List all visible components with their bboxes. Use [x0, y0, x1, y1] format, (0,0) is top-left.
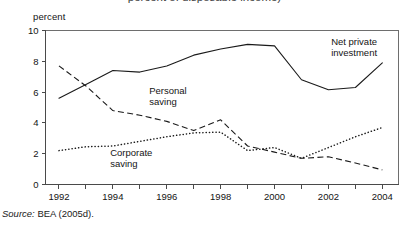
- y-axis-tick-label: 6: [33, 87, 38, 98]
- series-label-personal-saving: Personalsaving: [149, 85, 187, 107]
- source-prefix: Source:: [2, 208, 35, 219]
- x-axis-tick-label: 2004: [372, 191, 393, 201]
- series-line-corporate-saving: [59, 128, 382, 159]
- series-line-personal-saving: [59, 66, 382, 170]
- source-note: Source: BEA (2005d).: [2, 208, 94, 219]
- series-label-net-private-investment: Net privateinvestment: [331, 36, 377, 58]
- x-axis-tick-label: 1994: [102, 191, 123, 201]
- y-axis-tick-label: 4: [33, 117, 38, 128]
- x-axis-tick-label: 1996: [156, 191, 177, 201]
- series-group: [59, 44, 382, 170]
- y-axis-tick-label: 10: [28, 25, 39, 36]
- x-axis-tick-label: 2002: [318, 191, 339, 201]
- x-axis-tick-label: 1992: [48, 191, 69, 201]
- series-labels-group: Net privateinvestmentPersonalsavingCorpo…: [110, 36, 377, 169]
- chart-plot-area: 02468101992199419961998200020022004 Net …: [0, 0, 409, 200]
- x-axis-tick-label: 1998: [210, 191, 231, 201]
- series-label-corporate-saving: Corporatesaving: [110, 147, 152, 169]
- y-axis-tick-label: 0: [33, 179, 38, 190]
- y-axis-tick-label: 2: [33, 148, 38, 159]
- y-axis-tick-label: 8: [33, 56, 38, 67]
- source-citation: BEA (2005d).: [37, 208, 94, 219]
- x-axis-tick-label: 2000: [264, 191, 285, 201]
- figure-container: percent of disposable income) percent 02…: [0, 0, 409, 227]
